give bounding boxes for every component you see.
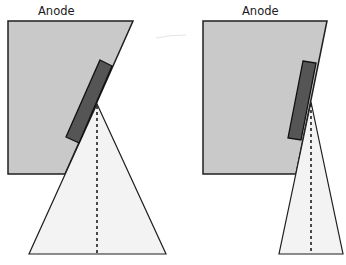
diagram-canvas: Anode Anode bbox=[0, 0, 346, 265]
panel-small-angle: Anode bbox=[203, 4, 343, 254]
panel-large-angle: Anode bbox=[8, 4, 166, 254]
anode-label: Anode bbox=[242, 4, 279, 18]
scan-artifact bbox=[156, 35, 186, 38]
anode-label: Anode bbox=[38, 4, 75, 18]
